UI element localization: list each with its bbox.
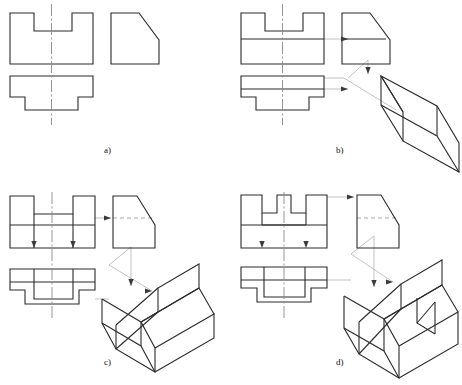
- panel-d: [231, 192, 462, 385]
- panel-d-top-slot-outline: [264, 267, 305, 297]
- panel-d-isometric-solid: [344, 260, 458, 378]
- panel-a-caption: a): [104, 145, 111, 155]
- panel-c-projection-lines: [95, 218, 152, 299]
- panel-c-front-view-outline: [10, 196, 95, 248]
- panel-d-projection-lines: [327, 197, 393, 287]
- panel-b-caption: b): [336, 145, 344, 155]
- panel-d-side-view-outline: [357, 195, 399, 248]
- panel-d-caption: d): [336, 357, 344, 367]
- panel-b-isometric-solid: [381, 76, 459, 172]
- panel-b-projection-lines: [324, 39, 396, 110]
- panel-c-caption: c): [104, 357, 111, 367]
- panel-d-arrowheads: [259, 194, 393, 287]
- panel-c-top-slot-outline: [34, 269, 73, 299]
- panel-c: [0, 192, 231, 385]
- figure-sheet: a): [0, 0, 462, 385]
- panel-c-side-view-outline: [113, 196, 155, 248]
- panel-a-side-view-outline: [111, 13, 159, 64]
- panel-c-isometric-solid: [102, 264, 214, 372]
- panel-a: [0, 0, 231, 192]
- panel-b: [231, 0, 462, 192]
